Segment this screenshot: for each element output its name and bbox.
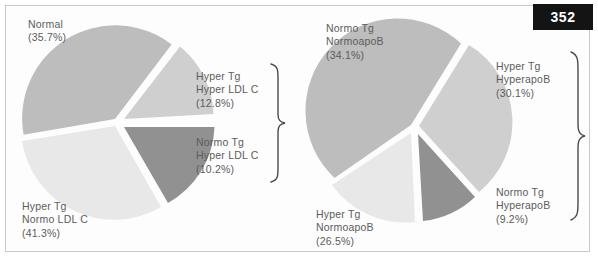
callout-normotg-normoapob-pct: (34.1%) <box>326 49 384 62</box>
callout-hypertg-normoldl-pct: (41.3%) <box>22 227 88 240</box>
callout-normotg-hyperldl: Normo Tg Hyper LDL C (10.2%) <box>196 136 259 176</box>
pie-left-graphic <box>18 22 220 224</box>
callout-normotg-hyperldl-pct: (10.2%) <box>196 163 259 176</box>
brace-left-icon <box>268 62 290 184</box>
callout-hypertg-normoapob-pct: (26.5%) <box>316 235 374 248</box>
callout-normotg-hyperldl-line2: Hyper LDL C <box>196 149 259 162</box>
callout-hypertg-normoapob-line2: NormoapoB <box>316 221 374 234</box>
callout-normotg-normoapob-line1: Normo Tg <box>326 22 384 35</box>
callout-normotg-normoapob-line2: NormoapoB <box>326 35 384 48</box>
pie-right-graphic <box>318 34 513 229</box>
callout-normal-line1: Normal <box>28 18 66 31</box>
figure-container: 352 Normal (35.7%) Hyper Tg Hyper LDL C … <box>0 0 598 261</box>
lipid-phenotype-pie-chart: Normal (35.7%) Hyper Tg Hyper LDL C (12.… <box>0 0 300 261</box>
callout-normal-pct: (35.7%) <box>28 31 66 44</box>
callout-normotg-hyperapob-pct: (9.2%) <box>496 213 550 226</box>
page-number-badge: 352 <box>533 4 593 30</box>
callout-hypertg-normoapob-line1: Hyper Tg <box>316 208 374 221</box>
callout-hypertg-hyperldl-line2: Hyper LDL C <box>196 83 259 96</box>
callout-hypertg-hyperapob: Hyper Tg HyperapoB (30.1%) <box>496 60 550 100</box>
callout-hypertg-normoldl: Hyper Tg Normo LDL C (41.3%) <box>22 200 88 240</box>
callout-normotg-hyperldl-line1: Normo Tg <box>196 136 259 149</box>
callout-hypertg-hyperldl-line1: Hyper Tg <box>196 70 259 83</box>
callout-hypertg-hyperldl: Hyper Tg Hyper LDL C (12.8%) <box>196 70 259 110</box>
callout-hypertg-hyperapob-line2: HyperapoB <box>496 73 550 86</box>
callout-hypertg-normoldl-line2: Normo LDL C <box>22 213 88 226</box>
callout-normotg-normoapob: Normo Tg NormoapoB (34.1%) <box>326 22 384 62</box>
callout-normotg-hyperapob: Normo Tg HyperapoB (9.2%) <box>496 186 550 226</box>
callout-normal: Normal (35.7%) <box>28 18 66 45</box>
callout-normotg-hyperapob-line2: HyperapoB <box>496 199 550 212</box>
callout-hypertg-hyperapob-pct: (30.1%) <box>496 87 550 100</box>
brace-right-icon <box>568 50 590 222</box>
callout-hypertg-normoldl-line1: Hyper Tg <box>22 200 88 213</box>
callout-hypertg-normoapob: Hyper Tg NormoapoB (26.5%) <box>316 208 374 248</box>
callout-normotg-hyperapob-line1: Normo Tg <box>496 186 550 199</box>
callout-hypertg-hyperldl-pct: (12.8%) <box>196 97 259 110</box>
apob-phenotype-pie-chart: Normo Tg NormoapoB (34.1%) Hyper Tg Hype… <box>298 0 598 261</box>
callout-hypertg-hyperapob-line1: Hyper Tg <box>496 60 550 73</box>
